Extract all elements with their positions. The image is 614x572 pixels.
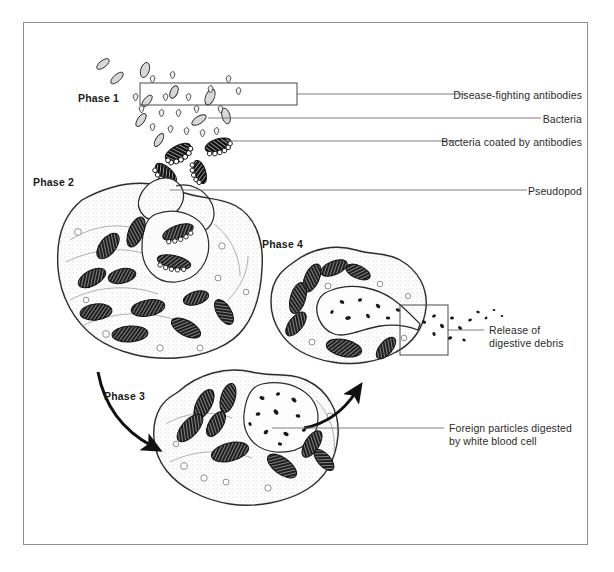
phase-1-label: Phase 1 [78,92,119,104]
antibody-group [133,72,241,138]
disease-fighting-antibodies-bracket [140,83,297,105]
foreign-particles-digested-label-line2: by white blood cell [449,435,572,448]
white-blood-cell-phase-3 [154,370,338,505]
white-blood-cell-phase-2 [58,178,263,358]
bacteria-coated-by-antibodies-label: Bacteria coated by antibodies [441,136,582,149]
release-of-digestive-debris-label-line2: digestive debris [489,337,564,350]
release-of-digestive-debris-label-line1: Release of [489,324,564,337]
bacteria-label: Bacteria [543,113,582,126]
disease-fighting-antibodies-label: Disease-fighting antibodies [453,89,582,102]
release-of-digestive-debris-label: Release ofdigestive debris [489,324,564,350]
phase-2-label: Phase 2 [33,176,74,188]
arrow-phase2-to-phase3 [98,372,152,446]
phase-4-label: Phase 4 [262,238,303,250]
phase-3-label: Phase 3 [104,390,145,402]
diagram-artwork [0,0,614,572]
foreign-particles-digested-label: Foreign particles digestedby white blood… [449,422,572,448]
white-blood-cell-phase-4 [271,247,504,363]
figure-canvas: Phase 1Phase 2Phase 3Phase 4 Disease-fig… [0,0,614,572]
foreign-particles-digested-label-line1: Foreign particles digested [449,422,572,435]
pseudopod-label: Pseudopod [528,185,582,198]
